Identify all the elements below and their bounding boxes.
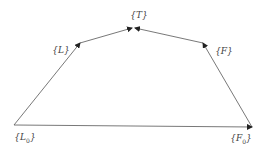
edge-L0-L [14,43,80,125]
node-label-L: {L} [52,45,69,55]
node-F0-close: } [246,133,252,143]
node-L0-text: {L [14,132,26,142]
edge-L0-F0 [14,125,252,127]
node-label-F0: {F0} [230,133,252,145]
edge-F-T [135,28,203,43]
node-label-L0: {L0} [14,132,35,144]
node-L-text: {L} [52,45,69,55]
node-F0-text: {F [230,133,242,143]
node-L0-close: } [30,132,36,142]
node-F-text: {F} [215,46,233,56]
node-T-text: {T} [130,10,147,20]
edge-L-T [80,28,132,43]
node-label-T: {T} [130,10,147,20]
node-label-F: {F} [215,46,233,56]
diagram-canvas [0,0,264,157]
